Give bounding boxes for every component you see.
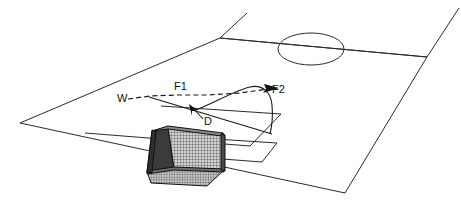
drag-label: D — [204, 115, 212, 127]
soccer-pitch-diagram: W F1 F2 D — [0, 0, 461, 205]
near-sideline-extension — [220, 13, 247, 38]
drag-arrowhead — [189, 104, 197, 116]
force-one-label: F1 — [174, 80, 187, 92]
halfway-line — [220, 38, 427, 57]
goal-right-post — [221, 134, 225, 171]
pitch-lines — [20, 8, 459, 193]
diagram-canvas: W F1 F2 D — [0, 0, 461, 205]
force-two-label: F2 — [272, 83, 285, 95]
wind-label: W — [117, 92, 128, 104]
center-circle — [278, 33, 344, 65]
far-sideline-extension — [427, 8, 459, 57]
soccer-goal — [147, 126, 225, 186]
